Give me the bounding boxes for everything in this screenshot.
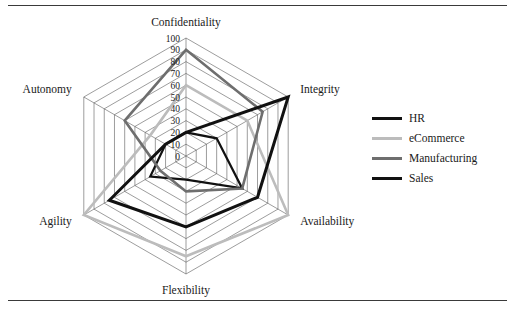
legend-item-ecommerce[interactable]: eCommerce bbox=[372, 128, 512, 148]
legend-item-sales[interactable]: Sales bbox=[372, 168, 512, 188]
tick-label-20: 20 bbox=[171, 128, 181, 138]
tick-label-40: 40 bbox=[171, 104, 181, 114]
radar-chart-svg: 0102030405060708090100 ConfidentialityIn… bbox=[0, 8, 370, 300]
axis-label-integrity: Integrity bbox=[300, 83, 340, 96]
tick-label-30: 30 bbox=[171, 116, 181, 126]
legend-swatch-icon bbox=[372, 157, 402, 160]
radar-chart-area: 0102030405060708090100 ConfidentialityIn… bbox=[0, 8, 370, 300]
tick-label-0: 0 bbox=[175, 152, 180, 162]
axis-label-autonomy: Autonomy bbox=[23, 83, 72, 96]
tick-label-10: 10 bbox=[171, 140, 181, 150]
legend-swatch-icon bbox=[372, 177, 402, 180]
axis-label-agility: Agility bbox=[39, 215, 72, 228]
legend-swatch-icon bbox=[372, 117, 402, 120]
tick-label-80: 80 bbox=[171, 57, 181, 67]
legend-label: Manufacturing bbox=[409, 152, 477, 165]
bottom-rule bbox=[8, 300, 507, 301]
tick-label-90: 90 bbox=[171, 45, 181, 55]
axis-label-confidentiality: Confidentiality bbox=[151, 16, 221, 29]
tick-label-60: 60 bbox=[171, 81, 181, 91]
legend-item-manufacturing[interactable]: Manufacturing bbox=[372, 148, 512, 168]
tick-label-50: 50 bbox=[171, 93, 181, 103]
legend-label: Sales bbox=[409, 172, 433, 185]
axis-label-availability: Availability bbox=[300, 215, 354, 228]
chart-legend: HReCommerceManufacturingSales bbox=[372, 108, 512, 188]
legend-label: eCommerce bbox=[409, 132, 465, 145]
legend-item-hr[interactable]: HR bbox=[372, 108, 512, 128]
tick-label-100: 100 bbox=[166, 34, 181, 44]
tick-label-70: 70 bbox=[171, 69, 181, 79]
figure-container: 0102030405060708090100 ConfidentialityIn… bbox=[0, 0, 515, 311]
top-rule bbox=[8, 5, 507, 6]
axis-label-flexibility: Flexibility bbox=[162, 284, 210, 297]
legend-label: HR bbox=[409, 112, 425, 125]
legend-swatch-icon bbox=[372, 137, 402, 140]
